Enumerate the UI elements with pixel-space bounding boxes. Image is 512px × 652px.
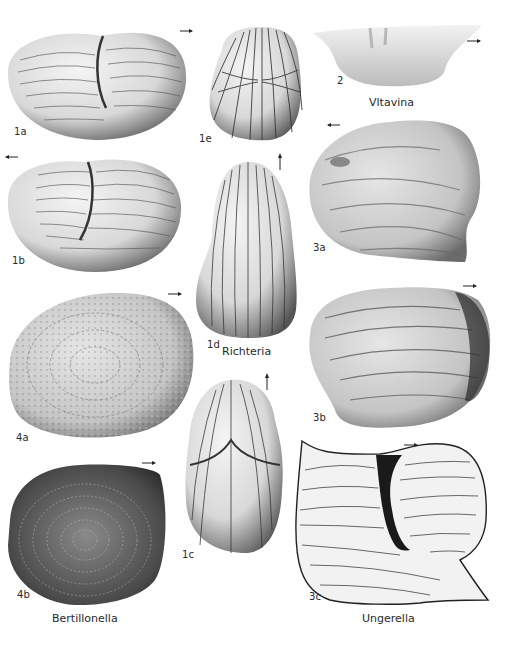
genus-caption-ungerella: Ungerella	[362, 613, 415, 624]
figure-label-2: 2	[337, 76, 344, 86]
figure-1d-richteria-ventral	[196, 153, 297, 338]
figure-label-4b: 4b	[17, 590, 30, 600]
figure-label-1e: 1e	[199, 134, 212, 144]
figure-1c-richteria-dorsal	[185, 373, 282, 553]
genus-caption-vltavina: Vltavina	[369, 97, 414, 108]
figure-label-1b: 1b	[12, 256, 25, 266]
figure-label-3a: 3a	[313, 243, 326, 253]
plate-illustrations	[0, 0, 512, 652]
figure-3a-ungerella-lateral	[309, 121, 480, 262]
figure-3c-ungerella-line-drawing	[296, 441, 488, 604]
figure-label-3b: 3b	[313, 413, 326, 423]
figure-label-4a: 4a	[16, 433, 29, 443]
figure-label-1d: 1d	[207, 340, 220, 350]
figure-label-1a: 1a	[14, 127, 27, 137]
genus-caption-bertillonella: Bertillonella	[52, 613, 118, 624]
fossil-plate: 1a 1b 1e 1d Richteria 2 Vltavina 3a 3b 4…	[0, 0, 512, 652]
figure-label-3c: 3c	[309, 592, 321, 602]
figure-3b-ungerella-lateral	[309, 284, 490, 428]
figure-1b-richteria-lateral	[5, 155, 181, 272]
figure-label-1c: 1c	[182, 550, 194, 560]
figure-1e-richteria-end	[210, 27, 302, 140]
figure-4b-bertillonella-lateral	[8, 461, 165, 605]
genus-caption-richteria: Richteria	[222, 346, 271, 357]
figure-4a-bertillonella-lateral	[8, 292, 194, 442]
figure-1a-richteria-lateral	[8, 29, 193, 140]
